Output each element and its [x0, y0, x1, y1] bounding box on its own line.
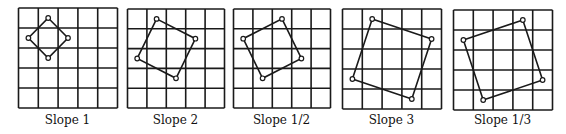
panel-label: Slope 1/2: [227, 113, 337, 127]
vertex-dot-icon: [480, 98, 485, 103]
vertex-dot-icon: [350, 77, 355, 82]
vertex-dot-icon: [65, 36, 70, 41]
vertex-dot-icon: [461, 38, 466, 43]
panel-label: Slope 1: [13, 113, 123, 127]
tilted-square: [352, 19, 431, 99]
vertex-dot-icon: [299, 56, 304, 61]
panel-slope-2: Slope 2: [121, 0, 231, 134]
vertex-dot-icon: [45, 56, 50, 61]
tilted-square: [28, 18, 68, 58]
vertex-dot-icon: [26, 36, 31, 41]
vertex-dot-icon: [193, 36, 198, 41]
panel-slope-3: Slope 3: [337, 0, 447, 134]
vertex-dot-icon: [240, 36, 245, 41]
grid-lines: [127, 9, 224, 108]
panel-label: Slope 2: [121, 113, 231, 127]
grid-lines: [18, 8, 117, 108]
panel-label: Slope 1/3: [448, 113, 558, 127]
vertex-dot-icon: [154, 17, 159, 22]
panel-slope-1-2: Slope 1/2: [227, 0, 337, 134]
vertex-dot-icon: [429, 37, 434, 42]
panel-slope-1-3: Slope 1/3: [448, 0, 558, 134]
vertex-dot-icon: [369, 17, 374, 22]
grid-lines: [233, 9, 330, 108]
vertex-dot-icon: [540, 78, 545, 83]
grid-lines: [342, 9, 441, 109]
vertex-dot-icon: [173, 76, 178, 81]
tilted-square: [463, 20, 542, 100]
vertex-dot-icon: [260, 76, 265, 81]
panel-slope-1: Slope 1: [13, 0, 123, 134]
grid-lines: [453, 10, 552, 110]
vertex-dot-icon: [279, 17, 284, 22]
vertex-dot-icon: [409, 97, 414, 102]
vertex-dot-icon: [134, 56, 139, 61]
vertex-dot-icon: [45, 16, 50, 21]
panel-label: Slope 3: [337, 113, 447, 127]
vertex-dot-icon: [520, 18, 525, 23]
